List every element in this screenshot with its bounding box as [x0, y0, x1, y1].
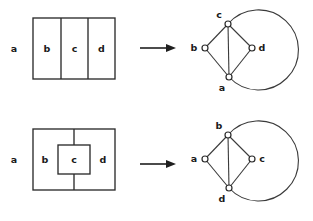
bottom-edge-b-c — [228, 135, 252, 159]
top-outer-region-label-a: a — [11, 43, 17, 54]
bottom-node-label-d: d — [219, 193, 226, 204]
top-edge-b-c — [205, 24, 228, 48]
top-edge-c-a — [228, 24, 229, 77]
top-edge-b-a — [205, 48, 229, 77]
bottom-cell-label-d: d — [100, 154, 107, 165]
top-cell-label-d: d — [98, 43, 105, 54]
bottom-edge-a-d — [205, 159, 229, 188]
top-transform-arrow-icon — [140, 44, 176, 52]
top-edge-c-d — [228, 24, 252, 48]
top-node-label-a: a — [219, 82, 225, 93]
bottom-edge-d-c — [229, 159, 252, 188]
bottom-transform-arrow-icon — [140, 160, 176, 168]
top-node-a — [226, 74, 232, 80]
bottom-graph: b a c d — [191, 120, 299, 204]
top-node-b — [202, 45, 208, 51]
bottom-node-label-c: c — [259, 153, 265, 164]
top-graph: c b d a — [191, 9, 299, 93]
diagram-row-bottom: a b c d — [0, 111, 313, 221]
bottom-cell-label-b: b — [42, 154, 49, 165]
top-edge-a-d — [229, 48, 252, 77]
bottom-edge-a-b — [205, 135, 228, 159]
bottom-outer-region-label-a: a — [11, 154, 17, 165]
bottom-node-b — [225, 132, 231, 138]
diagram-row-top: a b c d — [0, 0, 313, 110]
bottom-node-a — [202, 156, 208, 162]
top-node-label-d: d — [259, 42, 266, 53]
figure-canvas: a b c d — [0, 0, 313, 221]
top-cell-label-c: c — [72, 43, 78, 54]
top-node-label-c: c — [216, 9, 222, 20]
bottom-cell-label-c: c — [71, 154, 77, 165]
top-cell-label-b: b — [44, 43, 51, 54]
top-node-label-b: b — [191, 42, 198, 53]
top-row-svg: a b c d — [0, 0, 313, 110]
bottom-node-c — [249, 156, 255, 162]
bottom-node-label-b: b — [216, 120, 223, 131]
top-node-c — [225, 21, 231, 27]
bottom-node-d — [226, 185, 232, 191]
bottom-row-svg: a b c d — [0, 111, 313, 221]
bottom-node-label-a: a — [191, 153, 197, 164]
bottom-edge-b-d — [228, 135, 229, 188]
top-node-d — [249, 45, 255, 51]
